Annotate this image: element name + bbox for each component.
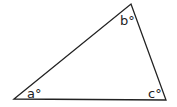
angle-label-b: b° [120, 13, 135, 28]
angle-label-c: c° [148, 86, 162, 101]
angle-label-a: a° [27, 86, 41, 101]
triangle-diagram: a° b° c° [0, 0, 177, 107]
